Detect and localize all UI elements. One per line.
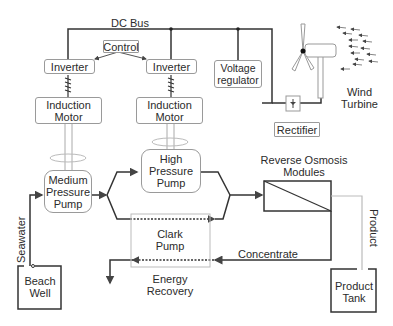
wind-turbine-icon <box>292 24 336 98</box>
inverter-motor-cable-2 <box>168 75 174 97</box>
wind-turbine-label: Wind Turbine <box>337 86 382 110</box>
rectifier-box: Rectifier <box>274 122 320 137</box>
wind-arrows <box>337 27 378 69</box>
inverter-1-box: Inverter <box>44 59 95 74</box>
inverter-motor-cable-1 <box>65 75 71 97</box>
medium-pressure-pump-box: Medium Pressure Pump <box>44 170 92 213</box>
beach-well-label: Beach Well <box>20 275 60 299</box>
product-label: Product <box>368 209 380 247</box>
hpp-to-ro-pipes <box>200 172 262 219</box>
product-tank-label: Product Tank <box>332 280 376 304</box>
high-pressure-pump-box: High Pressure Pump <box>141 149 201 193</box>
ro-modules-label: Reverse Osmosis Modules <box>254 154 354 178</box>
control-box: Control <box>103 40 139 53</box>
seawater-pipe <box>30 195 42 266</box>
mpp-to-pumps-pipes <box>92 172 137 219</box>
clark-pump-label: Clark Pump <box>150 228 190 252</box>
product-pipe <box>331 196 362 270</box>
energy-recovery-label: Energy Recovery <box>140 273 200 297</box>
inverter-2-box: Inverter <box>146 59 197 74</box>
rectifier-symbol <box>286 96 300 111</box>
control-signals <box>95 52 146 59</box>
shaft-2 <box>152 123 188 150</box>
dc-bus-label: DC Bus <box>108 17 152 29</box>
induction-motor-1-box: Induction Motor <box>35 97 102 124</box>
voltage-regulator-box: Voltage regulator <box>214 60 262 88</box>
shaft-1 <box>50 123 86 170</box>
seawater-label: Seawater <box>15 217 27 263</box>
induction-motor-2-box: Induction Motor <box>136 97 203 124</box>
ro-module <box>264 181 331 211</box>
concentrate-label: Concentrate <box>238 248 298 260</box>
